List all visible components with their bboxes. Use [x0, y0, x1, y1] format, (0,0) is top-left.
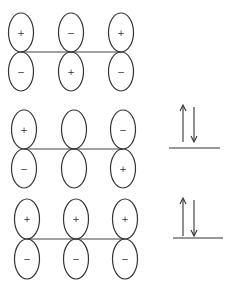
phase-sign: +	[20, 125, 28, 135]
mo-diagram: +−−++−+−−++−+−+−	[0, 0, 230, 297]
phase-sign: −	[67, 28, 75, 38]
spin-down-arrow-icon	[191, 107, 197, 142]
phase-sign: −	[20, 164, 28, 174]
spin-up-arrow-icon	[180, 198, 186, 236]
spin-down-arrow-icon	[191, 200, 197, 236]
phase-sign: +	[23, 214, 31, 224]
p-orbital-bottom-lobe	[62, 149, 87, 188]
phase-sign: −	[119, 125, 127, 135]
orbital-pi1: +−+−+−	[15, 198, 224, 279]
phase-sign: +	[17, 28, 25, 38]
orbital-pi3: +−−++−	[9, 13, 134, 91]
phase-sign: −	[117, 67, 125, 77]
phase-sign: −	[23, 254, 31, 264]
orbital-pi2: +−−+	[12, 105, 221, 188]
spin-up-arrow-icon	[180, 105, 186, 142]
phase-sign: +	[72, 214, 80, 224]
phase-sign: +	[67, 67, 75, 77]
phase-sign: +	[119, 164, 127, 174]
phase-sign: +	[117, 28, 125, 38]
phase-sign: −	[17, 67, 25, 77]
phase-sign: −	[121, 254, 129, 264]
phase-sign: −	[72, 254, 80, 264]
p-orbital-top-lobe	[62, 110, 87, 149]
phase-sign: +	[121, 214, 129, 224]
